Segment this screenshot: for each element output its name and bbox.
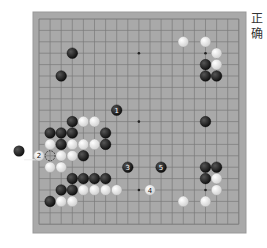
result-label: 正确 [251,12,265,42]
black-stone[interactable] [67,185,78,196]
white-stone[interactable] [78,139,89,150]
white-stone[interactable] [200,196,211,207]
black-stone[interactable] [78,173,89,184]
offboard-black-stone [14,146,25,157]
star-point [138,120,141,123]
white-stone-move-2[interactable]: 2 [34,151,45,162]
white-stone[interactable] [211,185,222,196]
black-stone[interactable] [45,196,56,207]
white-stone[interactable] [178,196,189,207]
white-stone[interactable] [89,139,100,150]
white-stone[interactable] [56,151,67,162]
black-stone[interactable] [100,139,111,150]
black-stone[interactable] [56,71,67,82]
white-stone[interactable] [200,37,211,48]
black-stone[interactable] [56,128,67,139]
black-stone[interactable] [200,173,211,184]
star-point [138,189,141,192]
white-stone[interactable] [78,116,89,127]
diagram-caption [60,234,260,246]
black-stone[interactable] [100,128,111,139]
black-stone[interactable] [200,116,211,127]
white-stone[interactable] [45,162,56,173]
black-stone-move-5[interactable]: 5 [156,162,167,173]
black-stone[interactable] [211,71,222,82]
offboard-stones [14,146,25,157]
black-stone[interactable] [89,173,100,184]
black-stone[interactable] [56,185,67,196]
black-stone[interactable] [200,71,211,82]
star-point [138,52,141,55]
black-stone[interactable] [78,151,89,162]
white-stone[interactable] [78,185,89,196]
white-stone[interactable] [178,37,189,48]
white-stone[interactable] [67,196,78,207]
white-stone[interactable] [56,196,67,207]
white-stone[interactable] [67,139,78,150]
white-stone[interactable] [56,162,67,173]
black-stone[interactable] [67,128,78,139]
white-stone[interactable] [211,48,222,59]
white-stone[interactable] [111,185,122,196]
white-stone[interactable] [100,185,111,196]
black-stone[interactable] [56,139,67,150]
go-board[interactable]: 12354 [0,0,267,248]
black-stone[interactable] [67,48,78,59]
white-stone[interactable] [211,173,222,184]
black-stone[interactable] [45,128,56,139]
white-stone[interactable] [211,59,222,70]
black-stone[interactable] [200,162,211,173]
white-stone[interactable] [67,151,78,162]
black-stone-move-3[interactable]: 3 [123,162,134,173]
move-number: 2 [37,152,41,160]
black-stone[interactable] [200,59,211,70]
move-number: 5 [159,164,163,172]
move-number: 1 [114,107,118,115]
black-stone-move-1[interactable]: 1 [111,105,122,116]
move-number: 3 [126,164,130,172]
white-stone[interactable] [89,116,100,127]
star-point [204,52,207,55]
white-stone-move-4[interactable]: 4 [145,185,156,196]
black-stone[interactable] [100,173,111,184]
black-stone[interactable] [67,173,78,184]
star-point [204,189,207,192]
move-number: 4 [148,187,153,195]
black-stone[interactable] [211,162,222,173]
white-stone[interactable] [89,185,100,196]
black-stone[interactable] [67,116,78,127]
white-stone[interactable] [45,139,56,150]
